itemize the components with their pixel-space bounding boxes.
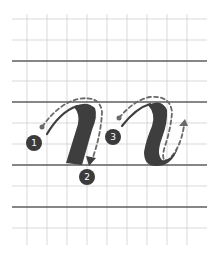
step-label-2: 2 (84, 172, 90, 182)
step-badge-2: 2 (79, 169, 95, 185)
downstroke-thick-2 (144, 102, 178, 166)
start-dot-1 (40, 125, 45, 130)
step-badge-1: 1 (26, 135, 42, 151)
step-label-1: 1 (31, 138, 37, 148)
stroke-guide-diagram: 1 2 3 (0, 0, 218, 257)
grid-horizontal-lines (12, 19, 207, 228)
step-label-3: 3 (110, 132, 116, 142)
downstroke-thick-1 (66, 104, 96, 165)
letter-stroke-first-arch (40, 98, 103, 166)
start-dot-3 (117, 116, 122, 121)
step-badge-3: 3 (105, 129, 121, 145)
upstroke-hairline-1 (47, 106, 77, 134)
